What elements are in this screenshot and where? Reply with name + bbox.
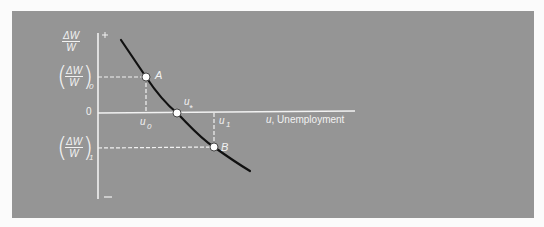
tick-u0-var: u <box>140 116 146 127</box>
tick-u1-var: u <box>219 115 225 126</box>
y1-denominator: W <box>69 148 78 159</box>
x-axis-title-text: , Unemployment <box>272 114 345 125</box>
x-axis <box>98 111 355 113</box>
point-b <box>210 143 218 151</box>
y1-fraction: ΔW W <box>65 136 83 159</box>
y0-subscript: 0 <box>89 82 93 91</box>
y0-fraction: ΔW W <box>65 65 83 88</box>
point-a-label: A <box>155 69 162 81</box>
point-ustar <box>173 109 181 117</box>
x-axis-title: u, Unemployment <box>266 114 344 125</box>
y1-numerator: ΔW <box>65 136 83 148</box>
y-axis-title-denominator: W <box>66 42 75 53</box>
y-axis-title: ΔW W <box>62 30 80 53</box>
tick-u0-sub: 0 <box>147 122 151 131</box>
tick-ustar-sub: * <box>189 103 193 113</box>
y0-denominator: W <box>69 77 78 88</box>
point-a <box>142 73 150 81</box>
y1-subscript: 1 <box>89 153 93 162</box>
zero-label: 0 <box>86 106 92 117</box>
tick-u1-sub: 1 <box>226 120 230 129</box>
guide-b-horizontal <box>98 147 214 148</box>
y-axis-title-numerator: ΔW <box>62 30 80 42</box>
point-b-label: B <box>221 141 228 153</box>
y0-numerator: ΔW <box>65 65 83 77</box>
